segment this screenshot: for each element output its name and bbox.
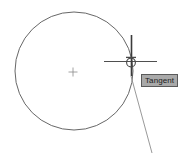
osnap-tooltip-label: Tangent [145, 77, 174, 85]
cad-drawing-canvas[interactable]: Tangent [0, 0, 196, 159]
circle-center-mark-icon [69, 68, 78, 77]
tangent-line-entity[interactable] [131, 76, 152, 153]
circle-entity[interactable] [15, 12, 133, 130]
osnap-tooltip: Tangent [141, 74, 178, 87]
